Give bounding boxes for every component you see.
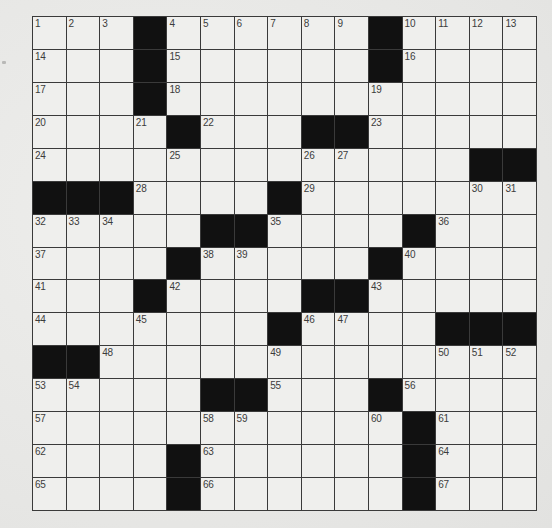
answer-cell[interactable]: 61 — [436, 412, 469, 444]
answer-cell[interactable] — [134, 412, 167, 444]
answer-cell[interactable] — [100, 83, 133, 115]
answer-cell[interactable] — [403, 116, 436, 148]
answer-cell[interactable] — [67, 412, 100, 444]
answer-cell[interactable]: 55 — [268, 379, 301, 411]
answer-cell[interactable] — [67, 280, 100, 312]
answer-cell[interactable]: 23 — [369, 116, 402, 148]
answer-cell[interactable] — [67, 313, 100, 345]
answer-cell[interactable] — [403, 280, 436, 312]
answer-cell[interactable]: 34 — [100, 215, 133, 247]
answer-cell[interactable] — [436, 149, 469, 181]
answer-cell[interactable] — [67, 83, 100, 115]
answer-cell[interactable]: 5 — [201, 17, 234, 49]
answer-cell[interactable] — [67, 50, 100, 82]
answer-cell[interactable]: 57 — [33, 412, 66, 444]
answer-cell[interactable] — [470, 478, 503, 510]
answer-cell[interactable] — [369, 313, 402, 345]
answer-cell[interactable] — [302, 215, 335, 247]
answer-cell[interactable] — [335, 182, 368, 214]
answer-cell[interactable] — [167, 182, 200, 214]
answer-cell[interactable] — [134, 149, 167, 181]
answer-cell[interactable]: 37 — [33, 248, 66, 280]
answer-cell[interactable]: 50 — [436, 346, 469, 378]
answer-cell[interactable] — [369, 478, 402, 510]
answer-cell[interactable]: 33 — [67, 215, 100, 247]
answer-cell[interactable] — [503, 116, 536, 148]
answer-cell[interactable] — [100, 412, 133, 444]
answer-cell[interactable]: 44 — [33, 313, 66, 345]
answer-cell[interactable] — [403, 149, 436, 181]
answer-cell[interactable]: 13 — [503, 17, 536, 49]
answer-cell[interactable] — [470, 83, 503, 115]
answer-cell[interactable]: 21 — [134, 116, 167, 148]
answer-cell[interactable] — [369, 149, 402, 181]
answer-cell[interactable]: 39 — [235, 248, 268, 280]
answer-cell[interactable]: 66 — [201, 478, 234, 510]
answer-cell[interactable]: 64 — [436, 445, 469, 477]
answer-cell[interactable] — [201, 83, 234, 115]
answer-cell[interactable]: 58 — [201, 412, 234, 444]
answer-cell[interactable]: 42 — [167, 280, 200, 312]
answer-cell[interactable] — [67, 116, 100, 148]
answer-cell[interactable] — [335, 412, 368, 444]
answer-cell[interactable] — [335, 346, 368, 378]
answer-cell[interactable] — [470, 50, 503, 82]
answer-cell[interactable] — [201, 50, 234, 82]
answer-cell[interactable]: 12 — [470, 17, 503, 49]
answer-cell[interactable] — [436, 182, 469, 214]
answer-cell[interactable] — [235, 116, 268, 148]
answer-cell[interactable] — [503, 412, 536, 444]
answer-cell[interactable]: 1 — [33, 17, 66, 49]
answer-cell[interactable] — [235, 83, 268, 115]
answer-cell[interactable]: 26 — [302, 149, 335, 181]
answer-cell[interactable] — [235, 478, 268, 510]
answer-cell[interactable] — [369, 182, 402, 214]
answer-cell[interactable]: 31 — [503, 182, 536, 214]
answer-cell[interactable] — [302, 83, 335, 115]
answer-cell[interactable] — [167, 215, 200, 247]
answer-cell[interactable] — [335, 379, 368, 411]
answer-cell[interactable] — [67, 248, 100, 280]
answer-cell[interactable] — [302, 346, 335, 378]
answer-cell[interactable]: 51 — [470, 346, 503, 378]
answer-cell[interactable] — [67, 445, 100, 477]
answer-cell[interactable]: 3 — [100, 17, 133, 49]
answer-cell[interactable] — [403, 83, 436, 115]
answer-cell[interactable] — [268, 280, 301, 312]
answer-cell[interactable] — [268, 83, 301, 115]
answer-cell[interactable]: 54 — [67, 379, 100, 411]
answer-cell[interactable] — [268, 445, 301, 477]
answer-cell[interactable]: 35 — [268, 215, 301, 247]
answer-cell[interactable] — [436, 83, 469, 115]
answer-cell[interactable]: 38 — [201, 248, 234, 280]
answer-cell[interactable] — [470, 116, 503, 148]
answer-cell[interactable] — [436, 280, 469, 312]
answer-cell[interactable]: 15 — [167, 50, 200, 82]
answer-cell[interactable] — [436, 116, 469, 148]
answer-cell[interactable] — [503, 248, 536, 280]
answer-cell[interactable]: 48 — [100, 346, 133, 378]
answer-cell[interactable]: 59 — [235, 412, 268, 444]
answer-cell[interactable] — [167, 313, 200, 345]
answer-cell[interactable]: 63 — [201, 445, 234, 477]
answer-cell[interactable]: 28 — [134, 182, 167, 214]
answer-cell[interactable] — [268, 116, 301, 148]
answer-cell[interactable] — [335, 83, 368, 115]
answer-cell[interactable] — [134, 478, 167, 510]
answer-cell[interactable] — [503, 83, 536, 115]
answer-cell[interactable]: 22 — [201, 116, 234, 148]
answer-cell[interactable] — [67, 149, 100, 181]
answer-cell[interactable] — [470, 379, 503, 411]
answer-cell[interactable] — [201, 313, 234, 345]
answer-cell[interactable] — [167, 346, 200, 378]
answer-cell[interactable] — [201, 346, 234, 378]
answer-cell[interactable] — [268, 412, 301, 444]
answer-cell[interactable]: 60 — [369, 412, 402, 444]
answer-cell[interactable]: 65 — [33, 478, 66, 510]
answer-cell[interactable] — [201, 149, 234, 181]
answer-cell[interactable]: 46 — [302, 313, 335, 345]
answer-cell[interactable] — [201, 280, 234, 312]
answer-cell[interactable] — [100, 313, 133, 345]
answer-cell[interactable] — [335, 215, 368, 247]
answer-cell[interactable] — [470, 248, 503, 280]
